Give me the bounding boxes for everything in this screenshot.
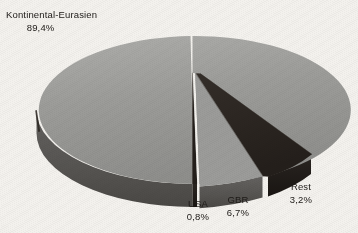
- slice-label-rest: Rest 3,2%: [284, 181, 318, 206]
- slice-label-name: USA: [181, 198, 215, 211]
- slice-label-value: 89,4%: [6, 22, 97, 35]
- slice-label-value: 3,2%: [284, 194, 318, 207]
- slice-label-gbr: GBR 6,7%: [221, 194, 255, 219]
- slice-label-value: 6,7%: [221, 207, 255, 220]
- slice-label-kontinental-eurasien: Kontinental-Eurasien 89,4%: [6, 9, 97, 34]
- slice-label-value: 0,8%: [181, 211, 215, 224]
- slice-label-name: GBR: [221, 194, 255, 207]
- slice-label-name: Rest: [284, 181, 318, 194]
- slice-label-name: Kontinental-Eurasien: [6, 9, 97, 22]
- slice-label-usa: USA 0,8%: [181, 198, 215, 223]
- pie-chart-figure: Kontinental-Eurasien 89,4% USA 0,8% GBR …: [0, 0, 358, 233]
